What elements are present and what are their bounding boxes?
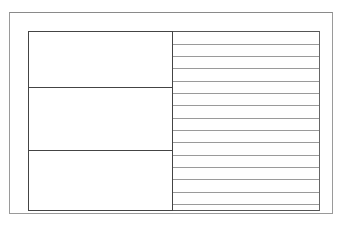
right-column-lined xyxy=(173,31,320,211)
left-cell-top xyxy=(29,32,172,88)
ruled-line xyxy=(173,105,319,106)
ruled-line xyxy=(173,81,319,82)
ruled-line xyxy=(173,44,319,45)
ruled-line xyxy=(173,204,319,205)
left-cell-bottom xyxy=(29,151,172,210)
left-column xyxy=(28,31,173,211)
ruled-line xyxy=(173,118,319,119)
ruled-line xyxy=(173,68,319,69)
ruled-line xyxy=(173,192,319,193)
ruled-line xyxy=(173,130,319,131)
ruled-line xyxy=(173,179,319,180)
ruled-line xyxy=(173,142,319,143)
ruled-line xyxy=(173,93,319,94)
left-cell-middle xyxy=(29,88,172,151)
ruled-line xyxy=(173,56,319,57)
ruled-line xyxy=(173,155,319,156)
ruled-line xyxy=(173,167,319,168)
